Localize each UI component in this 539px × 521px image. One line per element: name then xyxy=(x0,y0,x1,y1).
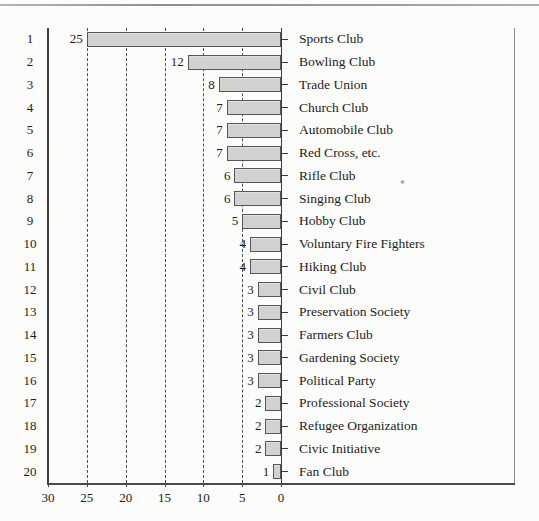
rank-label: 19 xyxy=(12,441,48,457)
category-tick xyxy=(282,130,288,131)
x-axis-tick-label: 30 xyxy=(34,490,62,506)
bar xyxy=(234,168,281,183)
category-tick xyxy=(282,426,288,427)
rank-label: 10 xyxy=(12,236,48,252)
zero-baseline-axis xyxy=(281,28,282,483)
rank-label: 12 xyxy=(12,282,48,298)
bar-value-label: 7 xyxy=(197,145,223,161)
category-label: Political Party xyxy=(299,373,376,389)
bar xyxy=(265,441,281,456)
category-label: Professional Society xyxy=(299,395,410,411)
category-tick xyxy=(282,84,288,85)
y-axis-left-spine xyxy=(47,28,49,483)
gridline-15 xyxy=(165,28,166,483)
rank-label: 13 xyxy=(12,304,48,320)
x-axis-tick xyxy=(87,483,88,487)
bar-value-label: 6 xyxy=(204,191,230,207)
bar-value-label: 2 xyxy=(235,441,261,457)
bar-value-label: 4 xyxy=(220,236,246,252)
rank-label: 3 xyxy=(12,77,48,93)
category-tick xyxy=(282,266,288,267)
rank-label: 16 xyxy=(12,373,48,389)
category-tick xyxy=(282,107,288,108)
category-label: Gardening Society xyxy=(299,350,400,366)
rank-label: 7 xyxy=(12,168,48,184)
category-label: Rifle Club xyxy=(299,168,356,184)
bar xyxy=(265,396,281,411)
category-label: Hobby Club xyxy=(299,213,365,229)
category-label: Bowling Club xyxy=(299,54,375,70)
bar xyxy=(250,237,281,252)
category-tick xyxy=(282,244,288,245)
rank-label: 11 xyxy=(12,259,48,275)
x-axis-tick xyxy=(126,483,127,487)
category-label: Church Club xyxy=(299,100,368,116)
gridline-20 xyxy=(126,28,127,483)
x-axis-tick xyxy=(242,483,243,487)
bar-value-label: 5 xyxy=(212,213,238,229)
rank-label: 2 xyxy=(12,54,48,70)
category-label: Red Cross, etc. xyxy=(299,145,381,161)
rank-label: 4 xyxy=(12,100,48,116)
x-axis-tick-label: 0 xyxy=(267,490,295,506)
rank-label: 6 xyxy=(12,145,48,161)
bar-value-label: 25 xyxy=(57,31,83,47)
bar-value-label: 4 xyxy=(220,259,246,275)
category-label: Refugee Organization xyxy=(299,418,418,434)
x-axis-tick-label: 10 xyxy=(189,490,217,506)
bar xyxy=(258,350,281,365)
gridline-5 xyxy=(242,28,243,483)
category-tick xyxy=(282,448,288,449)
scan-artifact-speck xyxy=(400,180,405,184)
gridline-25 xyxy=(87,28,88,483)
category-tick xyxy=(282,39,288,40)
category-tick xyxy=(282,198,288,199)
category-tick xyxy=(282,357,288,358)
bar-value-label: 3 xyxy=(228,373,254,389)
bar-value-label: 1 xyxy=(243,464,269,480)
bar-value-label: 2 xyxy=(235,395,261,411)
rank-label: 9 xyxy=(12,213,48,229)
category-label: Automobile Club xyxy=(299,122,393,138)
bar xyxy=(188,55,281,70)
category-label: Hiking Club xyxy=(299,259,366,275)
bar-value-label: 3 xyxy=(228,350,254,366)
category-tick xyxy=(282,380,288,381)
category-label: Civic Initiative xyxy=(299,441,380,457)
bar-value-label: 12 xyxy=(158,54,184,70)
category-tick xyxy=(282,312,288,313)
category-tick xyxy=(282,335,288,336)
rank-label: 20 xyxy=(12,464,48,480)
x-axis-tick-label: 15 xyxy=(151,490,179,506)
category-label: Voluntary Fire Fighters xyxy=(299,236,425,252)
category-tick xyxy=(282,289,288,290)
bar xyxy=(258,328,281,343)
bar xyxy=(227,146,281,161)
category-tick xyxy=(282,403,288,404)
gridline-10 xyxy=(203,28,204,483)
scanned-figure-page: 125Sports Club212Bowling Club38Trade Uni… xyxy=(0,0,539,521)
bar-value-label: 8 xyxy=(189,77,215,93)
x-axis-tick-label: 20 xyxy=(112,490,140,506)
bar-value-label: 3 xyxy=(228,282,254,298)
category-tick xyxy=(282,221,288,222)
x-axis-tick xyxy=(203,483,204,487)
bar-value-label: 3 xyxy=(228,327,254,343)
bar xyxy=(87,32,281,47)
bar xyxy=(242,214,281,229)
rank-label: 1 xyxy=(12,31,48,47)
category-label: Civil Club xyxy=(299,282,356,298)
x-axis-tick-label: 5 xyxy=(228,490,256,506)
rank-label: 5 xyxy=(12,122,48,138)
rank-label: 8 xyxy=(12,191,48,207)
category-label: Farmers Club xyxy=(299,327,373,343)
x-axis-tick xyxy=(48,483,49,487)
bar xyxy=(258,305,281,320)
bar xyxy=(250,259,281,274)
bar-value-label: 7 xyxy=(197,122,223,138)
bar-value-label: 2 xyxy=(235,418,261,434)
bar xyxy=(227,123,281,138)
category-tick xyxy=(282,153,288,154)
category-label: Singing Club xyxy=(299,191,371,207)
category-tick xyxy=(282,175,288,176)
